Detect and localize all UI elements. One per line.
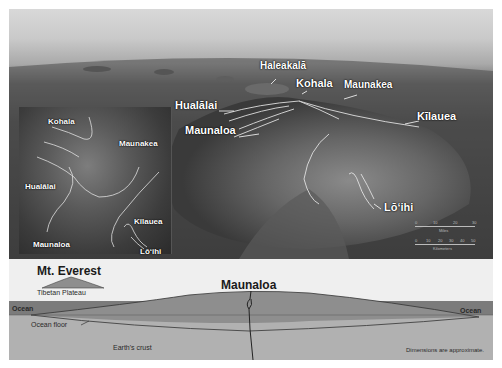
tibetan-plateau-label: Tibetan Plateau bbox=[37, 289, 86, 296]
inset-label-kilauea: Kīlauea bbox=[134, 217, 162, 226]
inset-label-loihi: Lō‘ihi bbox=[140, 247, 161, 256]
label-haleakala: Haleakalā bbox=[260, 60, 306, 71]
earths-crust-label: Earth's crust bbox=[113, 344, 152, 351]
inset-label-hualalai: Hualālai bbox=[25, 182, 56, 191]
label-kilauea: Kīlauea bbox=[417, 110, 456, 122]
inset-label-maunaloa: Maunaloa bbox=[33, 240, 70, 249]
scale-bar-miles: 0 10 20 30 Miles bbox=[415, 220, 477, 234]
inset-rift-lines bbox=[19, 107, 171, 254]
ocean-label-left: Ocean bbox=[12, 305, 33, 312]
figure-frame: Haleakalā Kohala Maunakea Hualālai Mauna… bbox=[9, 9, 493, 360]
label-hualalai: Hualālai bbox=[175, 99, 217, 111]
inset-label-maunakea: Maunakea bbox=[119, 139, 158, 148]
label-maunakea: Maunakea bbox=[344, 79, 392, 90]
scale-unit-miles: Miles bbox=[439, 228, 448, 233]
cross-section-diagram: Mt. Everest Tibetan Plateau Maunaloa Oce… bbox=[9, 259, 493, 360]
ocean-label-right: Ocean bbox=[460, 307, 481, 314]
scale-bar-kilometers: 0 10 20 30 40 50 Kilometers bbox=[415, 238, 477, 252]
label-maunaloa: Maunaloa bbox=[185, 124, 236, 136]
label-loihi: Lō‘ihi bbox=[384, 201, 413, 213]
everest-title: Mt. Everest bbox=[37, 264, 101, 278]
scale-unit-kilometers: Kilometers bbox=[433, 246, 452, 251]
inset-label-kohala: Kohala bbox=[48, 117, 75, 126]
maunaloa-title: Maunaloa bbox=[221, 278, 276, 292]
label-kohala: Kohala bbox=[296, 77, 333, 89]
dimensions-note: Dimensions are approximate. bbox=[406, 347, 484, 353]
relief-view: Haleakalā Kohala Maunakea Hualālai Mauna… bbox=[9, 9, 493, 259]
ocean-floor-label: Ocean floor bbox=[31, 321, 67, 328]
inset-map: Kohala Maunakea Hualālai Kīlauea Maunalo… bbox=[19, 107, 172, 254]
